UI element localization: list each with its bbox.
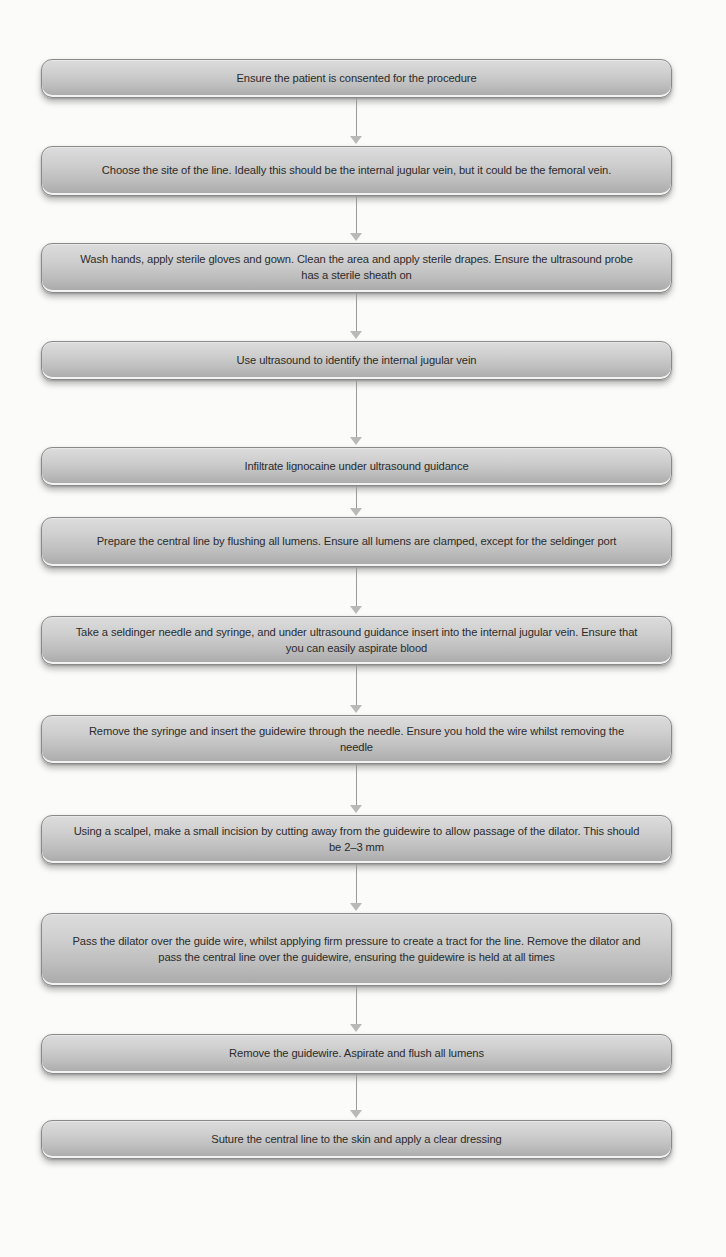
flow-step-6: Prepare the central line by flushing all… — [41, 517, 672, 567]
arrow-down-icon — [356, 486, 358, 517]
flow-step-8: Remove the syringe and insert the guidew… — [41, 715, 672, 764]
arrow-down-icon — [356, 986, 358, 1034]
flow-step-text: Prepare the central line by flushing all… — [97, 533, 617, 549]
arrow-down-icon — [356, 665, 358, 715]
flow-step-1: Ensure the patient is consented for the … — [41, 59, 672, 98]
arrow-down-icon — [356, 864, 358, 913]
flow-step-text: Remove the syringe and insert the guidew… — [72, 723, 641, 755]
flow-step-7: Take a seldinger needle and syringe, and… — [41, 616, 672, 665]
flow-step-12: Suture the central line to the skin and … — [41, 1120, 672, 1159]
flow-step-text: Wash hands, apply sterile gloves and gow… — [72, 251, 641, 283]
arrow-down-icon — [356, 98, 358, 146]
flow-step-text: Remove the guidewire. Aspirate and flush… — [229, 1045, 484, 1061]
arrow-down-icon — [356, 567, 358, 616]
flow-step-text: Pass the dilator over the guide wire, wh… — [72, 933, 641, 965]
flow-step-4: Use ultrasound to identify the internal … — [41, 341, 672, 380]
flow-step-text: Using a scalpel, make a small incision b… — [72, 823, 641, 855]
arrow-down-icon — [356, 764, 358, 815]
flow-step-11: Remove the guidewire. Aspirate and flush… — [41, 1034, 672, 1074]
flow-step-2: Choose the site of the line. Ideally thi… — [41, 146, 672, 196]
flow-step-3: Wash hands, apply sterile gloves and gow… — [41, 243, 672, 293]
flow-step-text: Infiltrate lignocaine under ultrasound g… — [244, 458, 468, 474]
flow-step-text: Take a seldinger needle and syringe, and… — [72, 624, 641, 656]
arrow-down-icon — [356, 1074, 358, 1120]
arrow-down-icon — [356, 196, 358, 243]
flow-step-text: Choose the site of the line. Ideally thi… — [102, 162, 611, 178]
arrow-down-icon — [356, 380, 358, 447]
flow-step-9: Using a scalpel, make a small incision b… — [41, 815, 672, 864]
flow-step-5: Infiltrate lignocaine under ultrasound g… — [41, 447, 672, 486]
central-line-insertion-flowchart: Ensure the patient is consented for the … — [0, 0, 726, 1257]
flow-step-text: Use ultrasound to identify the internal … — [237, 352, 477, 368]
arrow-down-icon — [356, 293, 358, 341]
flow-step-text: Suture the central line to the skin and … — [211, 1131, 501, 1147]
flow-step-10: Pass the dilator over the guide wire, wh… — [41, 913, 672, 986]
flow-step-text: Ensure the patient is consented for the … — [236, 70, 476, 86]
